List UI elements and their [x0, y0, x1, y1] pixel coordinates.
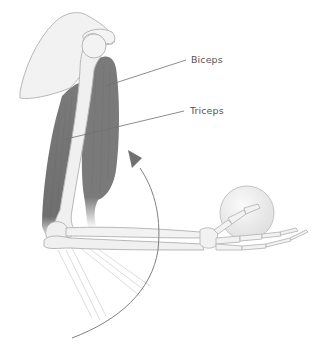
ghost-forearm [58, 246, 150, 320]
diagram-canvas [0, 0, 325, 352]
triceps-label: Triceps [190, 106, 224, 116]
radius-bone [66, 227, 206, 238]
arm-anatomy-diagram: Biceps Triceps [0, 0, 325, 352]
biceps-leader-line [106, 60, 186, 86]
arrowhead-icon [128, 150, 142, 168]
humeral-head [82, 34, 106, 58]
biceps-label: Biceps [191, 55, 223, 65]
